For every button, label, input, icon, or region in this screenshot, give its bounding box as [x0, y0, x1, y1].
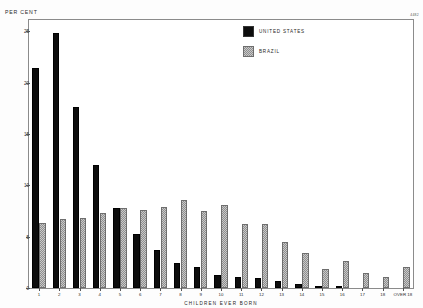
y-tick-mark [26, 83, 30, 84]
x-tick-mark [160, 288, 161, 291]
bar-brazil [383, 277, 389, 288]
x-tick-label: 12 [259, 292, 264, 297]
legend-label-united-states: UNITED STATES [259, 29, 305, 34]
bar-brazil [100, 213, 106, 288]
y-tick-mark [26, 237, 30, 238]
y-tick-mark [26, 31, 30, 32]
x-tick-mark [322, 288, 323, 291]
bar-brazil [181, 200, 187, 288]
legend-item-united-states: UNITED STATES [243, 25, 393, 41]
x-tick-mark [403, 288, 404, 291]
bar-united-states [53, 33, 59, 288]
y-tick-mark [26, 185, 30, 186]
x-tick-label: 3 [78, 292, 80, 297]
x-tick-mark [80, 288, 81, 291]
x-tick-mark [59, 288, 60, 291]
bar-united-states [154, 250, 160, 288]
bar-brazil [322, 269, 328, 289]
legend-swatch-united-states [243, 26, 254, 37]
legend-item-brazil: BRAZIL [243, 45, 393, 61]
bar-brazil [201, 211, 207, 288]
chart-figure: PER CENT 4482 0510152025 123456789101112… [0, 0, 423, 308]
bar-united-states [275, 281, 281, 288]
x-tick-mark [362, 288, 363, 291]
x-tick-mark [120, 288, 121, 291]
x-tick-label: 18 [380, 292, 385, 297]
legend-label-brazil: BRAZIL [259, 49, 280, 54]
bar-brazil [403, 267, 409, 288]
bar-united-states [194, 267, 200, 288]
x-tick-mark [302, 288, 303, 291]
x-tick-label: 6 [139, 292, 141, 297]
bar-united-states [214, 275, 220, 288]
x-tick-mark [241, 288, 242, 291]
x-axis: 123456789101112131415161718OVER 18 CHILD… [29, 288, 413, 308]
bar-brazil [282, 242, 288, 288]
bar-united-states [255, 278, 261, 288]
x-tick-label: 2 [58, 292, 60, 297]
bar-united-states [32, 68, 38, 288]
bar-brazil [60, 219, 66, 288]
x-tick-label: 8 [179, 292, 181, 297]
x-tick-label: 10 [219, 292, 224, 297]
y-axis-title: PER CENT [5, 9, 38, 15]
x-tick-mark [201, 288, 202, 291]
chart-legend: UNITED STATES BRAZIL [243, 25, 393, 65]
x-tick-mark [261, 288, 262, 291]
x-tick-mark [221, 288, 222, 291]
y-tick-mark [26, 134, 30, 135]
x-tick-mark [342, 288, 343, 291]
bar-united-states [174, 263, 180, 288]
bar-brazil [242, 224, 248, 288]
x-tick-mark [181, 288, 182, 291]
x-tick-label: 13 [279, 292, 284, 297]
bar-brazil [343, 261, 349, 288]
x-tick-mark [39, 288, 40, 291]
corner-code-label: 4482 [410, 13, 419, 17]
x-tick-label: 11 [239, 292, 244, 297]
x-tick-mark [100, 288, 101, 291]
x-tick-label: 15 [320, 292, 325, 297]
x-tick-label: 16 [340, 292, 345, 297]
bar-brazil [262, 224, 268, 288]
bar-brazil [140, 210, 146, 288]
x-tick-label: 5 [119, 292, 121, 297]
x-tick-label: OVER 18 [394, 292, 413, 297]
x-tick-label: 7 [159, 292, 161, 297]
bar-brazil [302, 253, 308, 288]
legend-swatch-brazil [243, 46, 254, 57]
x-tick-mark [140, 288, 141, 291]
x-axis-title: CHILDREN EVER BORN [29, 301, 413, 306]
x-tick-mark [282, 288, 283, 291]
x-tick-label: 1 [38, 292, 40, 297]
x-tick-mark [383, 288, 384, 291]
bar-united-states [93, 165, 99, 288]
bar-brazil [221, 205, 227, 288]
bar-united-states [113, 208, 119, 288]
x-tick-label: 14 [299, 292, 304, 297]
x-tick-label: 4 [99, 292, 101, 297]
bar-brazil [363, 273, 369, 288]
x-tick-label: 9 [200, 292, 202, 297]
bar-united-states [133, 234, 139, 288]
bar-brazil [120, 208, 126, 288]
x-tick-label: 17 [360, 292, 365, 297]
bar-brazil [161, 207, 167, 288]
bar-united-states [73, 107, 79, 288]
bar-brazil [39, 223, 45, 288]
bar-brazil [80, 218, 86, 288]
bar-united-states [235, 277, 241, 288]
